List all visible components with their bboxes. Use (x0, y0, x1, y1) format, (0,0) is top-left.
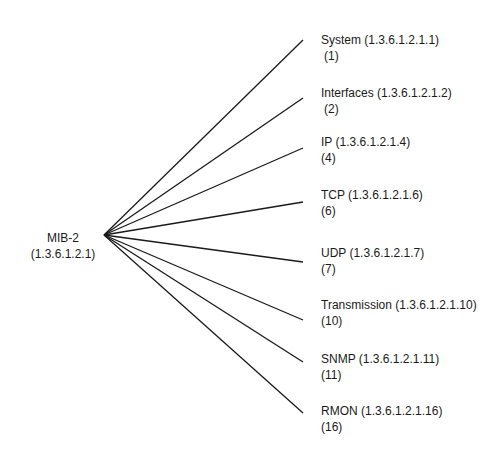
connector-line (104, 235, 303, 320)
child-node-tcp: TCP (1.3.6.1.2.1.6) (6) (321, 187, 423, 219)
child-node-number: (4) (321, 150, 410, 166)
child-node-number: (10) (321, 313, 477, 329)
root-node-oid: (1.3.6.1.2.1) (18, 246, 108, 262)
child-node-number: (7) (321, 261, 424, 277)
child-node-number: (2) (321, 101, 452, 117)
connector-line (104, 98, 303, 235)
child-node-snmp: SNMP (1.3.6.1.2.1.11) (11) (321, 351, 439, 383)
child-node-label: Transmission (1.3.6.1.2.1.10) (321, 298, 477, 312)
connector-line (104, 202, 303, 235)
child-node-rmon: RMON (1.3.6.1.2.1.16) (16) (321, 403, 442, 435)
connector-line (104, 235, 303, 262)
connector-line (104, 40, 303, 235)
child-node-number: (1) (321, 48, 439, 64)
child-node-label: UDP (1.3.6.1.2.1.7) (321, 246, 424, 260)
child-node-interfaces: Interfaces (1.3.6.1.2.1.2) (2) (321, 85, 452, 117)
child-node-label: Interfaces (1.3.6.1.2.1.2) (321, 86, 452, 100)
child-node-udp: UDP (1.3.6.1.2.1.7) (7) (321, 245, 424, 277)
child-node-label: SNMP (1.3.6.1.2.1.11) (321, 352, 439, 366)
child-node-label: TCP (1.3.6.1.2.1.6) (321, 188, 423, 202)
child-node-system: System (1.3.6.1.2.1.1) (1) (321, 32, 439, 64)
child-node-transmission: Transmission (1.3.6.1.2.1.10) (10) (321, 297, 477, 329)
child-node-number: (6) (321, 203, 423, 219)
child-node-number: (16) (321, 419, 442, 435)
child-node-label: IP (1.3.6.1.2.1.4) (321, 135, 410, 149)
child-node-number: (11) (321, 367, 439, 383)
root-node-name: MIB-2 (18, 230, 108, 246)
child-node-label: System (1.3.6.1.2.1.1) (321, 33, 439, 47)
connector-line (104, 148, 303, 235)
root-node-mib2: MIB-2 (1.3.6.1.2.1) (18, 230, 108, 262)
child-node-label: RMON (1.3.6.1.2.1.16) (321, 404, 442, 418)
connector-line (104, 235, 303, 362)
connector-line (104, 235, 303, 413)
child-node-ip: IP (1.3.6.1.2.1.4) (4) (321, 134, 410, 166)
tree-connector-lines (0, 0, 488, 454)
